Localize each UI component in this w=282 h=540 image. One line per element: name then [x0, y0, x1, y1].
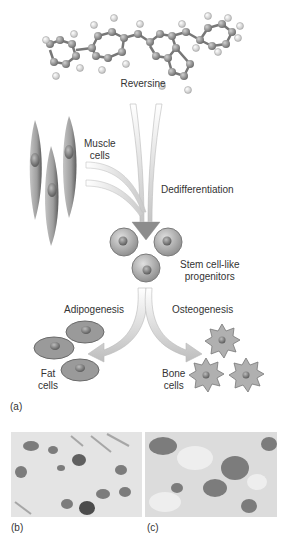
stem-cells-label: Stem cell-like progenitors [180, 259, 239, 283]
micrograph-b-texture [11, 432, 142, 517]
micrograph-b [11, 432, 142, 517]
adipogenesis-label: Adipogenesis [64, 304, 124, 316]
osteogenesis-label: Osteogenesis [172, 304, 233, 316]
panel-a-label: (a) [10, 401, 22, 413]
muscle-cells-label: Muscle cells [84, 138, 116, 162]
bone-cells [189, 324, 264, 392]
dedifferentiation-arrow [130, 104, 162, 240]
osteogenesis-arrow [145, 288, 202, 362]
fat-cells-label: Fat cells [38, 368, 58, 392]
micrograph-c-texture [145, 432, 277, 517]
panel-b-label: (b) [11, 522, 23, 534]
bone-cells-label: Bone cells [162, 368, 185, 392]
dedifferentiation-label: Dedifferentiation [161, 184, 234, 196]
molecule-label: Reversine [108, 78, 178, 90]
muscle-to-stem-arrow [86, 162, 146, 216]
muscle-cells [30, 116, 77, 246]
panel-c-label: (c) [147, 522, 159, 534]
micrograph-c [145, 432, 277, 517]
